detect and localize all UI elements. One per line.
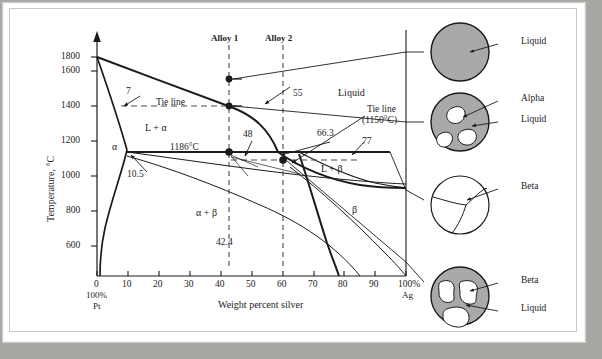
arrow-55 — [265, 87, 290, 104]
marker-stubs — [229, 79, 242, 106]
x-axis-title: Weight percent silver — [218, 300, 303, 310]
region-label-l-plus-beta: L + β — [321, 164, 342, 174]
arrow-tie-1150 — [292, 116, 365, 163]
y-tick-1800: 1800 — [61, 52, 80, 62]
x-tick-80: 80 — [338, 280, 348, 290]
annotation-comp-42-4: 42.4 — [216, 238, 233, 248]
annotation-eutectic-temp: 1186°C — [170, 143, 199, 153]
micro-2-alpha-blob-b — [437, 132, 453, 147]
figure-page: 600 800 1000 1200 1400 1600 1800 Tempera… — [0, 0, 602, 359]
leader-to-micro-3 — [390, 152, 424, 200]
annotation-comp-48: 48 — [243, 130, 253, 140]
micrograph-3 — [431, 176, 498, 234]
micro-2-label-liquid: Liquid — [521, 115, 546, 125]
x-tick-40: 40 — [215, 280, 225, 290]
micro-4-label-beta: Beta — [521, 276, 538, 286]
micro-3-label-beta: Beta — [521, 182, 538, 192]
micro-4-liquid-blob-c — [443, 307, 469, 327]
marker-alloy2-1150 — [279, 156, 287, 164]
x-tick-20: 20 — [153, 280, 163, 290]
y-tick-800: 800 — [66, 206, 80, 216]
y-tick-600: 600 — [66, 241, 80, 251]
annotation-tie-line-1400: Tie line — [156, 98, 185, 108]
micro-4-beta-blob-b — [459, 281, 477, 305]
micro-1-label-liquid: Liquid — [521, 37, 546, 47]
micro-3-circle — [431, 176, 489, 234]
arrow-66-3 — [281, 142, 330, 155]
x-tick-50: 50 — [246, 280, 256, 290]
l-beta-upper-thin — [127, 152, 406, 184]
x-tick-30: 30 — [184, 280, 194, 290]
y-tick-1400: 1400 — [61, 101, 80, 111]
y-tick-1000: 1000 — [61, 171, 80, 181]
x-tick-100: 100% — [398, 280, 420, 290]
x-left-endpoint-element: Pt — [93, 302, 101, 311]
region-label-beta: β — [352, 205, 357, 215]
micro-1-circle — [431, 23, 489, 81]
solvus-left-curve — [100, 150, 127, 276]
alloy-1-label: Alloy 1 — [211, 34, 238, 43]
annotation-comp-55: 55 — [293, 89, 303, 99]
eutectic-fan-lines — [231, 155, 300, 176]
micrograph-1 — [431, 23, 498, 81]
leader-to-micro-1 — [233, 52, 424, 79]
region-label-l-plus-alpha: L + α — [145, 123, 167, 133]
region-label-alpha-plus-beta: α + β — [196, 208, 217, 218]
y-axis-ticks — [91, 57, 97, 246]
y-tick-1600: 1600 — [61, 66, 80, 76]
micro-2-alpha-blob-c — [458, 129, 477, 145]
micro-4-label-liquid: Liquid — [521, 304, 546, 314]
micrograph-4 — [431, 267, 498, 327]
micro-4-beta-blob-a — [439, 281, 454, 303]
x-tick-60: 60 — [277, 280, 287, 290]
annotation-tie-line-1150-temp: (1150°C) — [362, 116, 397, 126]
arrow-7 — [124, 96, 140, 106]
micro-2-alpha-blob-a — [447, 107, 465, 124]
y-axis-title: Temperature, °C — [46, 156, 56, 222]
annotation-comp-77: 77 — [362, 137, 372, 147]
y-axis-arrow — [93, 31, 101, 42]
x-tick-90: 90 — [369, 280, 379, 290]
solvus-right-thin — [127, 156, 360, 276]
micro-2-label-alpha: Alpha — [521, 94, 544, 104]
annotation-tie-line-1150: Tie line — [367, 105, 396, 115]
micrograph-2 — [431, 93, 498, 151]
solidus-left-curve — [97, 57, 127, 150]
annotation-comp-66-3: 66.3 — [317, 129, 334, 139]
arrow-48 — [245, 141, 252, 156]
region-label-liquid: Liquid — [338, 88, 365, 98]
y-tick-1200: 1200 — [61, 136, 80, 146]
x-right-endpoint-element: Ag — [402, 291, 413, 300]
alloy-2-label: Alloy 2 — [265, 34, 292, 43]
annotation-comp-7: 7 — [126, 87, 131, 97]
x-tick-0: 0 — [94, 280, 99, 290]
annotation-comp-10-5: 10.5 — [127, 170, 144, 180]
x-tick-70: 70 — [308, 280, 318, 290]
x-left-endpoint-percent: 100% — [86, 291, 107, 300]
x-tick-10: 10 — [122, 280, 132, 290]
region-label-alpha: α — [112, 142, 117, 152]
marker-alloy1-eutectic — [225, 148, 233, 156]
